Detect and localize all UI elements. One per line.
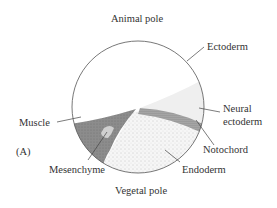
panel-label: (A) — [16, 146, 31, 157]
mesenchyme-label: Mesenchyme — [49, 164, 105, 175]
neural-ectoderm-label-line1: Neural — [223, 103, 252, 114]
muscle-label: Muscle — [19, 117, 50, 128]
endoderm-label: Endoderm — [182, 164, 226, 175]
ectoderm-label: Ectoderm — [207, 41, 248, 52]
neural-ectoderm-label-line2: ectoderm — [223, 116, 262, 127]
animal-pole-label: Animal pole — [111, 13, 163, 24]
notochord-label: Notochord — [203, 144, 248, 155]
vegetal-pole-label: Vegetal pole — [115, 185, 167, 196]
